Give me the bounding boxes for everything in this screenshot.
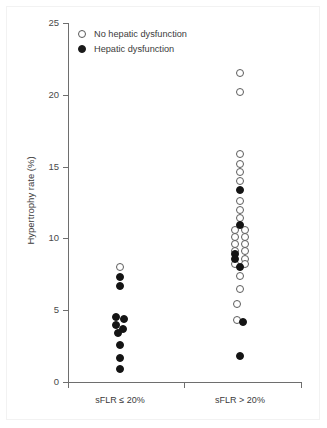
data-point — [116, 341, 124, 349]
data-point — [236, 206, 244, 214]
data-point — [236, 160, 244, 168]
data-point — [233, 300, 241, 308]
data-point — [236, 197, 244, 205]
data-point — [236, 352, 244, 360]
data-point — [114, 329, 122, 337]
data-point — [236, 177, 244, 185]
open-circle-icon — [78, 30, 86, 38]
x-category-label: sFLR ≤ 20% — [60, 395, 180, 405]
y-tick-label: 5 — [19, 305, 59, 315]
data-point — [236, 285, 244, 293]
x-tick-mark — [68, 382, 69, 388]
y-tick-label: 25 — [19, 18, 59, 28]
legend-item-no-hepatic-dysfunction: No hepatic dysfunction — [78, 26, 187, 41]
legend-label: No hepatic dysfunction — [94, 29, 187, 39]
x-tick-mark — [301, 382, 302, 388]
data-point — [120, 315, 128, 323]
data-point — [236, 69, 244, 77]
chart-legend: No hepatic dysfunction Hepatic dysfuncti… — [78, 26, 187, 56]
y-tick-mark — [63, 310, 68, 311]
filled-circle-icon — [78, 45, 86, 53]
y-tick-label: 20 — [19, 90, 59, 100]
x-tick-mark — [184, 382, 185, 388]
legend-item-hepatic-dysfunction: Hepatic dysfunction — [78, 41, 187, 56]
data-point — [116, 365, 124, 373]
data-point — [236, 272, 244, 280]
y-tick-mark — [63, 167, 68, 168]
data-point — [236, 88, 244, 96]
data-point — [116, 282, 124, 290]
x-category-label: sFLR > 20% — [180, 395, 300, 405]
data-point — [236, 263, 244, 271]
data-point — [236, 150, 244, 158]
y-tick-mark — [63, 95, 68, 96]
y-axis-line — [68, 23, 69, 383]
y-tick-mark — [63, 238, 68, 239]
data-point — [116, 273, 124, 281]
scatter-plot-figure: 0510152025 sFLR ≤ 20%sFLR > 20% Hypertro… — [0, 0, 327, 428]
data-point — [116, 354, 124, 362]
data-point — [116, 263, 124, 271]
y-axis-title: Hypertrophy rate (%) — [25, 121, 36, 281]
data-point — [239, 318, 247, 326]
y-tick-mark — [63, 23, 68, 24]
data-point — [236, 186, 244, 194]
data-point — [231, 255, 239, 263]
y-tick-label: 0 — [19, 377, 59, 387]
legend-label: Hepatic dysfunction — [94, 44, 174, 54]
data-point — [236, 168, 244, 176]
plot-area: 0510152025 sFLR ≤ 20%sFLR > 20% Hypertro… — [0, 0, 327, 428]
